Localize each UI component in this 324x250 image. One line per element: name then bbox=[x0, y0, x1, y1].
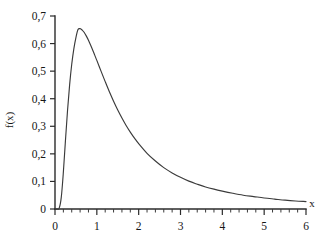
y-axis-tick-labels: 00,10,20,30,40,50,60,7 bbox=[32, 10, 47, 215]
data-series-curve bbox=[55, 29, 306, 210]
x-axis-tick-labels: 0123456 bbox=[52, 220, 309, 232]
lognormal-density-chart: 0123456 00,10,20,30,40,50,60,7 x f(x) bbox=[0, 0, 324, 250]
x-axis-tick-label: 2 bbox=[136, 220, 142, 232]
x-axis-title: x bbox=[309, 197, 315, 209]
y-axis-tick-label: 0,3 bbox=[32, 120, 47, 133]
x-axis-tick-label: 1 bbox=[94, 220, 100, 232]
y-axis-title: f(x) bbox=[3, 111, 16, 128]
x-axis-tick-label: 3 bbox=[178, 220, 184, 232]
y-axis-major-ticks bbox=[50, 16, 55, 209]
x-axis-tick-label: 0 bbox=[52, 220, 58, 232]
y-axis-tick-label: 0,1 bbox=[32, 175, 47, 188]
x-axis-major-ticks bbox=[55, 209, 306, 215]
x-axis-tick-label: 5 bbox=[261, 220, 267, 232]
y-axis-tick-label: 0,7 bbox=[32, 10, 47, 23]
y-axis-tick-label: 0,2 bbox=[32, 148, 47, 161]
axes-group bbox=[55, 16, 306, 209]
y-axis-tick-label: 0,5 bbox=[32, 65, 47, 78]
x-axis-tick-label: 6 bbox=[303, 220, 309, 232]
y-axis-tick-label: 0,6 bbox=[32, 38, 47, 51]
x-axis-tick-label: 4 bbox=[219, 220, 225, 232]
chart-container: 0123456 00,10,20,30,40,50,60,7 x f(x) bbox=[0, 0, 324, 250]
y-axis-tick-label: 0 bbox=[40, 203, 46, 215]
y-axis-tick-label: 0,4 bbox=[32, 93, 47, 106]
